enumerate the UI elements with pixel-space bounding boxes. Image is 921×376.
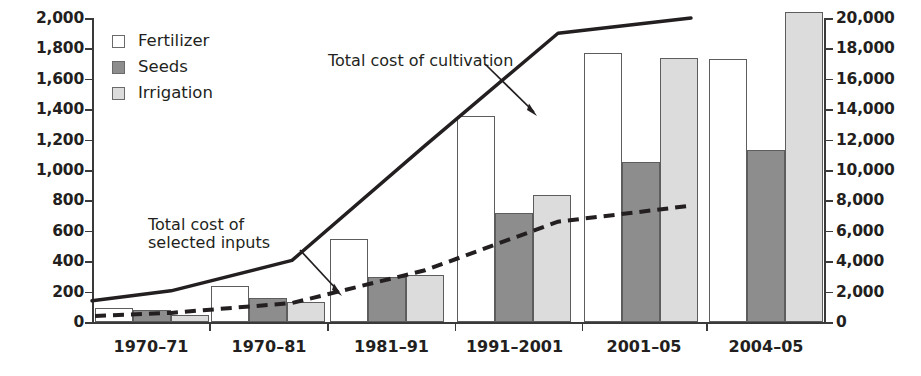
x-axis-tick-mark [582,322,584,331]
selected-inputs-annotation-arrow [300,250,342,296]
annotation-total-cost-selected-inputs: Total cost of selected inputs [148,216,270,253]
legend-label: Seeds [138,59,188,76]
chart-container: 2,000 1,800 1,600 1,400 1,200 1,000 800 … [0,0,921,376]
legend: Fertilizer Seeds Irrigation [112,28,213,106]
x-axis-tick-mark [706,322,708,331]
legend-label: Irrigation [138,85,213,102]
legend-swatch-seeds-icon [112,61,125,74]
legend-item-fertilizer: Fertilizer [112,28,213,54]
x-axis-tick-mark [209,322,211,331]
x-axis-category-label: 1970–81 [210,339,328,355]
legend-label: Fertilizer [138,33,209,50]
x-axis-category-label: 2001–05 [582,339,706,355]
annotation-total-cost-cultivation: Total cost of cultivation [328,52,513,70]
x-axis-category-label: 1981–91 [328,339,455,355]
legend-item-irrigation: Irrigation [112,80,213,106]
legend-swatch-irrigation-icon [112,87,125,100]
x-axis-category-label: 1991–2001 [447,339,582,355]
legend-swatch-fertilizer-icon [112,35,125,48]
x-axis-category-label: 1970–71 [92,339,210,355]
x-axis-tick-mark [327,322,329,331]
x-axis-line [92,322,826,324]
x-axis-category-label: 2004–05 [706,339,826,355]
x-axis-tick-mark [455,322,457,331]
legend-item-seeds: Seeds [112,54,213,80]
